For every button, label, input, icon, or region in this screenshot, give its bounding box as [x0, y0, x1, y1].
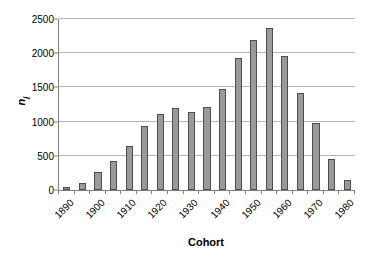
- y-axis-tick-label: 0: [20, 185, 54, 196]
- bars-group: [59, 19, 355, 190]
- x-axis-tick-label: 1950: [234, 197, 263, 226]
- bar: [328, 159, 335, 190]
- x-axis-tick-label: 1920: [140, 197, 169, 226]
- bar-chart-figure: nj 05001000150020002500 1890190019101920…: [0, 0, 366, 257]
- bar: [94, 172, 101, 190]
- x-axis-tick-label: 1980: [327, 197, 356, 226]
- x-axis-tick-mark: [105, 190, 106, 194]
- x-axis-tick-mark: [74, 190, 75, 194]
- y-axis-tick-labels: 05001000150020002500: [20, 0, 54, 257]
- x-axis-tick-label: 1930: [171, 197, 200, 226]
- x-axis-tick-mark: [167, 190, 168, 194]
- x-axis-tick-mark: [89, 190, 90, 194]
- x-axis-tick-label: 1960: [265, 197, 294, 226]
- y-axis-tick-mark: [53, 87, 58, 88]
- bar: [297, 93, 304, 190]
- y-axis-tick-mark: [53, 121, 58, 122]
- x-axis-tick-mark: [307, 190, 308, 194]
- x-axis-tick-mark: [229, 190, 230, 194]
- bar: [203, 107, 210, 190]
- x-axis-tick-label: 1940: [202, 197, 231, 226]
- bar: [235, 58, 242, 190]
- x-axis-tick-mark: [58, 190, 59, 194]
- x-axis-title: Cohort: [58, 236, 354, 248]
- plot-area: [58, 19, 355, 191]
- y-axis-tick-mark: [53, 190, 58, 191]
- bar: [157, 114, 164, 190]
- y-axis-tick-mark: [53, 53, 58, 54]
- bar: [141, 126, 148, 190]
- bar: [250, 40, 257, 190]
- x-axis-tick-label: 1900: [78, 197, 107, 226]
- y-axis-tick-mark: [53, 19, 58, 20]
- bar: [126, 146, 133, 190]
- bar: [312, 123, 319, 190]
- bar: [344, 180, 351, 190]
- bar: [219, 89, 226, 190]
- x-axis-tick-mark: [245, 190, 246, 194]
- y-axis-tick-label: 1500: [20, 82, 54, 93]
- y-axis-tick-label: 500: [20, 150, 54, 161]
- x-axis-tick-mark: [338, 190, 339, 194]
- x-axis-tick-mark: [214, 190, 215, 194]
- x-axis-tick-mark: [151, 190, 152, 194]
- y-axis-tick-label: 1000: [20, 116, 54, 127]
- bar: [281, 56, 288, 190]
- x-axis-tick-mark: [276, 190, 277, 194]
- x-axis-tick-mark: [120, 190, 121, 194]
- x-axis-tick-mark: [136, 190, 137, 194]
- y-axis-tick-label: 2500: [20, 14, 54, 25]
- x-axis-tick-mark: [354, 190, 355, 194]
- bar: [188, 112, 195, 190]
- bar: [266, 28, 273, 190]
- x-axis-tick-mark: [183, 190, 184, 194]
- x-axis-tick-label: 1970: [296, 197, 325, 226]
- x-axis-tick-marks: [58, 190, 354, 195]
- x-axis-tick-mark: [198, 190, 199, 194]
- x-axis-tick-mark: [292, 190, 293, 194]
- bar: [79, 183, 86, 190]
- y-axis-tick-mark: [53, 155, 58, 156]
- bar: [110, 161, 117, 190]
- x-axis-tick-label: 1910: [109, 197, 138, 226]
- y-axis-tick-label: 2000: [20, 48, 54, 59]
- bar: [172, 108, 179, 190]
- x-axis-tick-mark: [261, 190, 262, 194]
- x-axis-tick-mark: [323, 190, 324, 194]
